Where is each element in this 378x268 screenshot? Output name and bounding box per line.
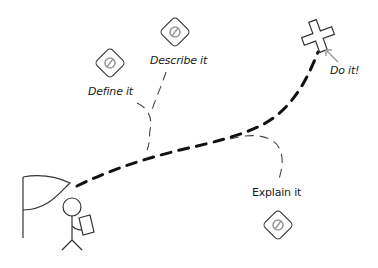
diagram-lines [0, 0, 378, 268]
no-entry-sign-icon [159, 16, 190, 47]
x-mark-icon [297, 15, 338, 56]
branch-describe [152, 72, 166, 110]
journey-diagram: Define it Describe it Explain it Do it! [0, 0, 378, 268]
step-label-define: Define it [88, 85, 133, 98]
stick-figure-icon [62, 198, 94, 250]
no-entry-sign-icon [262, 209, 293, 240]
arrow-icon [326, 50, 338, 62]
no-entry-sign-icon [94, 47, 125, 78]
step-label-describe: Describe it [150, 54, 207, 67]
step-label-explain: Explain it [252, 186, 301, 199]
goal-label: Do it! [330, 64, 359, 77]
branch-define [137, 103, 151, 150]
branch-explain [230, 136, 282, 182]
